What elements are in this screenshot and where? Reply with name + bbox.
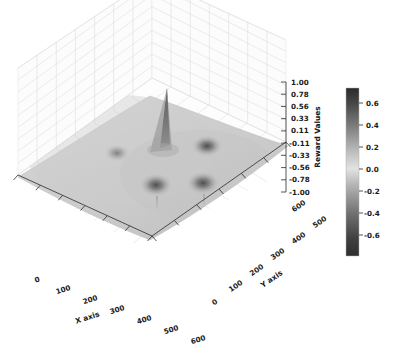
x-tick-0: 0 (33, 275, 41, 285)
z-tick-7: -0.56 (289, 163, 310, 172)
colorbar-tick-labels: 0.6 0.4 0.2 0.0 -0.2 -0.4 -0.6 (364, 99, 380, 240)
y-tick-6: 600 (290, 198, 307, 214)
colorbar-tick-1: 0.4 (366, 121, 379, 130)
reward-spike-shadow (147, 143, 179, 157)
x-tick-5: 500 (163, 323, 180, 336)
x-tick-1: 100 (55, 283, 72, 296)
y-tick-1: 100 (227, 278, 244, 294)
colorbar-tick-2: 0.2 (366, 143, 379, 152)
x-tick-3: 300 (109, 303, 126, 316)
penalty-well-upper-right (191, 135, 223, 157)
y-tick-4: 400 (290, 230, 307, 246)
y-tick-0: 0 (210, 297, 219, 307)
penalty-well-left (104, 144, 130, 162)
z-tick-2: 0.56 (291, 102, 309, 111)
colorbar-tick-6: -0.6 (364, 231, 380, 240)
z-tick-1: 0.78 (291, 90, 309, 99)
penalty-well-lower-left (139, 173, 173, 197)
y-tick-labels: 0 100 200 300 400 500 600 (210, 198, 328, 307)
y-tick-2: 200 (248, 262, 265, 278)
z-tick-0: 1.00 (291, 78, 309, 87)
y-tick-3: 300 (269, 246, 286, 262)
colorbar[interactable]: 0.6 0.4 0.2 0.0 -0.2 -0.4 -0.6 (346, 88, 380, 256)
z-tick-5: -0.11 (289, 139, 310, 148)
colorbar-tick-5: -0.4 (364, 209, 380, 218)
x-tick-6: 600 (190, 333, 207, 346)
colorbar-ticks (359, 103, 363, 235)
colorbar-tick-4: -0.2 (364, 187, 380, 196)
figure-canvas: 0 100 200 300 400 500 600 X axis 0 100 2… (0, 0, 393, 355)
z-tick-3: 0.33 (291, 114, 309, 123)
z-tick-8: -0.78 (289, 175, 310, 184)
colorbar-gradient[interactable] (346, 88, 359, 256)
z-tick-labels: 1.00 0.78 0.56 0.33 0.11 -0.11 -0.33 -0.… (289, 78, 310, 197)
colorbar-tick-0: 0.6 (366, 99, 379, 108)
z-tick-4: 0.11 (291, 126, 309, 135)
x-tick-4: 400 (136, 313, 153, 326)
x-tick-labels: 0 100 200 300 400 500 600 (33, 275, 206, 347)
z-tick-6: -0.33 (289, 151, 310, 160)
x-axis-label: X axis (74, 309, 101, 325)
y-tick-5: 500 (311, 214, 328, 230)
z-tick-9: -1.00 (289, 188, 310, 197)
x-tick-2: 200 (82, 293, 99, 306)
colorbar-tick-3: 0.0 (366, 165, 379, 174)
surface-plot-figure: 0 100 200 300 400 500 600 X axis 0 100 2… (0, 0, 393, 355)
z-axis-label: Reward Values (313, 106, 322, 168)
